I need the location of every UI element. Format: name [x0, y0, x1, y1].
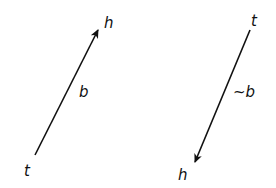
arrow-b-tail-label: t: [24, 162, 31, 180]
arrow-not-b-head-label: h: [178, 166, 188, 184]
arrow-b-shaft: [35, 30, 98, 155]
arrow-b-head-label: h: [104, 14, 114, 32]
arrow-b: h t b: [24, 14, 114, 180]
arrow-b-edge-label: b: [79, 83, 89, 101]
arrow-not-b: t ~b h: [178, 12, 258, 184]
arrow-not-b-tail-label: t: [251, 12, 258, 30]
arrow-not-b-edge-label: ~b: [233, 83, 255, 101]
diagram-canvas: h t b t ~b h: [0, 0, 276, 188]
